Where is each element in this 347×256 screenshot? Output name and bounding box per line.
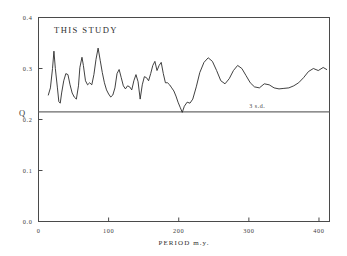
periodogram-chart: 0.00.10.20.30.4 0100200300400 THIS STUDY… xyxy=(0,0,347,256)
x-tick-label: 300 xyxy=(243,227,254,234)
plot-title: THIS STUDY xyxy=(54,25,118,35)
y-axis-tick-labels: 0.00.10.20.30.4 xyxy=(23,14,33,225)
x-tick-label: 200 xyxy=(173,227,184,234)
x-axis-tick-labels: 0100200300400 xyxy=(37,227,325,234)
y-tick-label: 0.0 xyxy=(23,218,33,225)
y-axis-ticks xyxy=(39,18,43,222)
plot-frame xyxy=(39,17,331,222)
three-sd-label: 3 s.d. xyxy=(249,103,265,109)
x-tick-label: 100 xyxy=(103,227,114,234)
chart-figure: 0.00.10.20.30.4 0100200300400 THIS STUDY… xyxy=(0,0,347,256)
x-tick-label: 400 xyxy=(313,227,324,234)
x-axis-ticks xyxy=(39,218,319,222)
y-tick-label: 0.4 xyxy=(23,14,33,21)
y-axis-title: Q xyxy=(19,108,25,118)
q-spectrum-line xyxy=(48,48,326,112)
x-axis-title: PERIOD m.y. xyxy=(158,239,209,247)
x-tick-label: 0 xyxy=(37,227,41,234)
y-tick-label: 0.1 xyxy=(23,167,33,174)
y-tick-label: 0.3 xyxy=(23,65,33,72)
